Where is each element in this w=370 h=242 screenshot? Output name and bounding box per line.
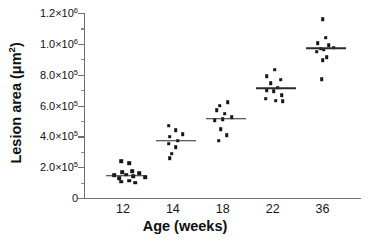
y-axis-minor-tick-mark (81, 183, 85, 184)
data-point (265, 74, 269, 78)
data-point (181, 133, 185, 137)
mean-line (156, 140, 196, 142)
y-axis-minor-tick-mark (81, 152, 85, 153)
data-point (168, 156, 172, 160)
data-point (218, 104, 222, 108)
data-point (119, 159, 123, 163)
data-point (321, 58, 325, 62)
data-point (316, 41, 320, 45)
y-axis-tick-mark (78, 136, 84, 137)
data-point (133, 181, 137, 185)
data-point (279, 78, 283, 82)
data-point (167, 142, 171, 146)
data-point (217, 139, 221, 143)
y-axis-tick-mark (78, 167, 84, 168)
data-point (215, 108, 219, 112)
data-point (170, 152, 174, 156)
data-point (280, 93, 284, 97)
y-axis-minor-tick-mark (81, 28, 85, 29)
data-point (119, 180, 123, 184)
data-point (264, 97, 268, 101)
y-axis-minor-tick-mark (81, 59, 85, 60)
data-point (272, 90, 276, 94)
data-point (321, 18, 325, 22)
y-axis-tick-mark (78, 13, 84, 14)
y-axis-minor-tick-mark (81, 90, 85, 91)
data-point (174, 145, 178, 149)
data-point (127, 179, 131, 183)
plot-area: 1214182236 (0, 0, 370, 242)
data-point (225, 133, 229, 137)
x-axis-title: Age (weeks) (0, 218, 370, 234)
data-point (168, 135, 172, 139)
mean-line (206, 118, 246, 120)
data-point (219, 128, 223, 132)
data-point (174, 129, 178, 133)
y-axis-tick-mark (78, 75, 84, 76)
data-point (274, 99, 278, 103)
data-point (324, 36, 328, 40)
data-point (226, 100, 230, 104)
data-point (281, 99, 285, 103)
data-point (130, 169, 134, 173)
data-point (315, 50, 319, 54)
y-axis-tick-mark (78, 44, 84, 45)
mean-line (106, 175, 146, 177)
data-point (127, 162, 131, 166)
data-point (273, 68, 277, 72)
data-point (327, 44, 331, 48)
data-point (269, 81, 273, 85)
data-point (223, 112, 227, 116)
x-axis-tick-label: 18 (216, 202, 230, 216)
y-axis-tick-mark (78, 106, 84, 107)
data-point (320, 77, 324, 81)
data-point (325, 56, 329, 60)
x-axis-tick-label: 22 (266, 202, 280, 216)
x-axis-tick-label: 12 (116, 202, 130, 216)
mean-line (256, 87, 296, 89)
data-point (167, 124, 171, 128)
y-axis-minor-tick-mark (81, 121, 85, 122)
x-axis-tick-label: 36 (316, 202, 330, 216)
y-axis-tick-mark (78, 198, 84, 199)
scatter-plot-figure: Lesion area (μm2) 02.0×1054.0×1056.0×105… (0, 0, 370, 242)
x-axis-tick-label: 14 (166, 202, 180, 216)
mean-line (306, 48, 346, 50)
